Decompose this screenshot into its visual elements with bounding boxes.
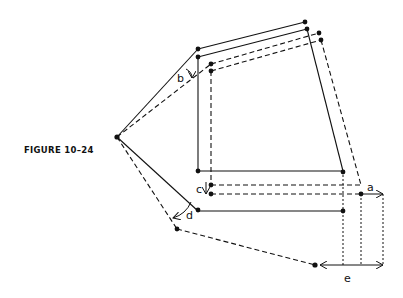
displaced-top-inner xyxy=(211,40,321,71)
member-top-outer xyxy=(198,22,305,49)
joint xyxy=(209,62,214,67)
joint xyxy=(303,20,308,25)
arrow-b xyxy=(186,69,192,78)
joint xyxy=(305,27,310,32)
label-c: c xyxy=(196,183,202,196)
joint xyxy=(175,227,180,232)
dimension-arrows xyxy=(173,69,383,265)
displaced-top-outer xyxy=(211,33,319,64)
member-right-side xyxy=(307,29,343,171)
label-a: a xyxy=(367,181,374,194)
joint xyxy=(196,208,201,213)
joint-apex xyxy=(114,134,119,139)
joint xyxy=(209,183,214,188)
displaced-apex-top xyxy=(117,64,211,137)
joint xyxy=(359,192,364,197)
displaced-lower-chord xyxy=(177,229,315,265)
joint xyxy=(196,55,201,60)
label-d: d xyxy=(186,209,193,222)
joint xyxy=(319,38,324,43)
displaced-structure xyxy=(117,33,361,265)
truss-displacement-diagram: a b c d e xyxy=(0,0,403,298)
label-b: b xyxy=(177,72,184,85)
joint xyxy=(196,169,201,174)
joint xyxy=(209,192,214,197)
joint xyxy=(312,262,317,267)
joint xyxy=(196,47,201,52)
joint xyxy=(341,170,346,175)
joint xyxy=(341,209,346,214)
member-top-inner xyxy=(198,29,307,57)
joint xyxy=(317,31,322,36)
label-e: e xyxy=(344,272,351,285)
original-structure xyxy=(117,22,343,211)
member-apex-top xyxy=(117,49,198,137)
joint xyxy=(209,69,214,74)
